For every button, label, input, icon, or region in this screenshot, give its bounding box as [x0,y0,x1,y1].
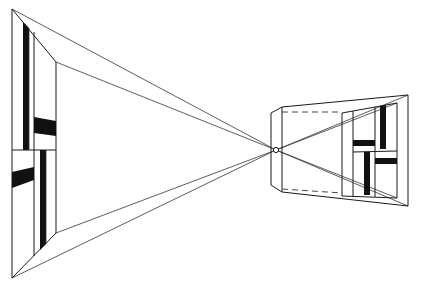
left-box [12,9,56,278]
left-bar-bottom-horizontal [12,167,34,188]
vanishing-point-marker [273,147,278,152]
perspective-diagram [0,0,422,291]
right-bar-bottom-horizontal [375,158,397,164]
right-box [271,95,408,206]
left-bar-top-vertical [23,22,29,150]
perspective-rays [12,9,408,278]
right-bar-bottom-vertical [364,152,370,195]
right-bar-top-vertical [380,105,386,149]
left-bar-top-horizontal [34,117,56,136]
right-bar-top-horizontal [353,140,375,146]
left-bar-bottom-vertical [40,150,46,250]
diagram-canvas [0,0,422,291]
